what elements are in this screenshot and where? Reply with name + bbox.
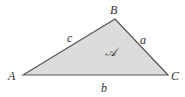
vertex-label-c: C <box>171 69 180 83</box>
side-label-b: b <box>101 81 107 95</box>
side-label-a: a <box>140 33 146 47</box>
triangle <box>23 19 168 75</box>
vertex-label-a: A <box>7 69 16 83</box>
side-label-c: c <box>67 31 73 45</box>
vertex-label-b: B <box>110 3 118 17</box>
triangle-diagram: A B C a b c 𝒜 <box>0 0 185 97</box>
